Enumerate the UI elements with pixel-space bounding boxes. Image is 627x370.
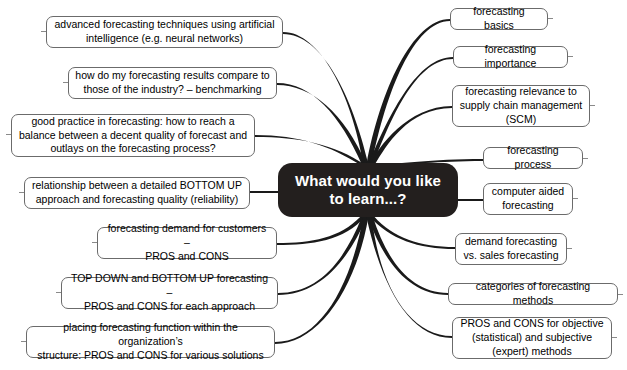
node-line: good practice in forecasting: how to rea… [18,115,248,129]
node-text: advanced forecasting techniques using ar… [53,18,276,46]
connector-right-categories [368,217,448,295]
connector-right-demand-vs-sales [369,217,455,250]
node-demand-vs-sales[interactable]: demand forecasting vs. sales forecasting [455,233,567,265]
center-line-2: to learn...? [329,190,406,207]
node-line: forecasting demand for customers – [104,222,270,250]
node-scm-relevance[interactable]: forecasting relevance to supply chain ma… [452,85,590,127]
connector-left-advanced-techniques [283,32,368,164]
node-line: demand forecasting [462,235,560,249]
node-advanced-techniques[interactable]: advanced forecasting techniques using ar… [46,16,283,48]
node-line: advanced forecasting techniques using ar… [53,18,276,32]
node-line: forecasting [490,199,566,213]
stub-right-4 [583,158,588,159]
node-line: placing forecasting function within the … [33,321,268,349]
node-line: how do my forecasting results compare to [75,69,270,83]
node-line: PROS and CONS for objective [459,317,605,331]
connector-left-demand-for-customers [277,217,365,246]
stub-right-6 [567,248,572,249]
node-text: placing forecasting function within the … [33,321,268,363]
node-text: computer aided forecasting [490,185,566,213]
stub-right-2 [568,56,573,57]
connector-right-scm-relevance [370,106,452,165]
node-process[interactable]: forecasting process [483,147,583,169]
node-line: TOP DOWN and BOTTOM UP forecasting – [68,272,271,300]
connector-left-good-practice [255,135,365,165]
node-text: good practice in forecasting: how to rea… [18,115,248,157]
node-basics[interactable]: forecasting basics [450,8,548,30]
node-placing-function[interactable]: placing forecasting function within the … [26,326,275,358]
node-line: those of the industry? – benchmarking [75,83,270,97]
node-line: forecasting process [490,144,576,172]
node-top-down-bottom-up[interactable]: TOP DOWN and BOTTOM UP forecasting – PRO… [61,277,278,309]
stub-right-8 [612,337,617,338]
node-line: categories of forecasting methods [455,280,611,308]
node-line: forecasting basics [457,5,541,33]
node-line: approach and forecasting quality (reliab… [31,193,243,207]
connector-left-top-down-bottom-up [278,217,367,295]
stub-right-1 [548,18,553,19]
node-text: demand forecasting vs. sales forecasting [462,235,560,263]
node-line: PROS and CONS for each approach [68,300,271,314]
mind-map-canvas: advanced forecasting techniques using ar… [0,0,627,370]
node-line: (expert) methods [459,345,605,359]
node-benchmarking[interactable]: how do my forecasting results compare to… [68,67,277,99]
node-line: forecasting relevance to [459,85,583,99]
node-line: intelligence (e.g. neural networks) [53,32,276,46]
stub-right-7 [618,294,623,295]
node-text: categories of forecasting methods [455,280,611,308]
node-line: vs. sales forecasting [462,249,560,263]
stub-right-3 [590,105,595,106]
node-line: computer aided [490,185,566,199]
connector-left-benchmarking [277,83,367,164]
node-text: forecasting process [490,144,576,172]
center-node-text: What would you like to learn...? [295,172,441,209]
node-text: how do my forecasting results compare to… [75,69,270,97]
node-importance[interactable]: forecasting importance [453,46,568,68]
node-line: structure: PROS and CONS for various sol… [33,349,268,363]
center-node[interactable]: What would you like to learn...? [278,163,458,217]
node-line: (SCM) [459,113,583,127]
center-line-1: What would you like [295,172,441,189]
connector-right-importance [368,57,453,164]
node-line: (statistical) and subjective [459,331,605,345]
connector-right-basics [367,19,450,164]
node-line: outlays on the forecasting process? [18,142,248,156]
node-demand-for-customers[interactable]: forecasting demand for customers – PROS … [97,227,277,259]
node-text: forecasting importance [460,43,561,71]
node-line: forecasting importance [460,43,561,71]
node-text: forecasting relevance to supply chain ma… [459,85,583,127]
node-line: relationship between a detailed BOTTOM U… [31,179,243,193]
node-line: supply chain management [459,99,583,113]
node-good-practice[interactable]: good practice in forecasting: how to rea… [11,114,255,157]
node-computer-aided[interactable]: computer aided forecasting [483,183,573,215]
node-categories[interactable]: categories of forecasting methods [448,283,618,305]
node-text: relationship between a detailed BOTTOM U… [31,179,243,207]
connector-right-objective-subjective [366,217,452,338]
node-bottom-up-quality[interactable]: relationship between a detailed BOTTOM U… [24,177,250,209]
node-line: PROS and CONS [104,250,270,264]
connector-left-placing-function [275,217,368,344]
node-text: forecasting basics [457,5,541,33]
node-text: PROS and CONS for objective (statistical… [459,317,605,359]
node-text: forecasting demand for customers – PROS … [104,222,270,264]
node-objective-subjective[interactable]: PROS and CONS for objective (statistical… [452,317,612,359]
node-line: balance between a decent quality of fore… [18,129,248,143]
stub-right-5 [573,198,578,199]
node-text: TOP DOWN and BOTTOM UP forecasting – PRO… [68,272,271,314]
